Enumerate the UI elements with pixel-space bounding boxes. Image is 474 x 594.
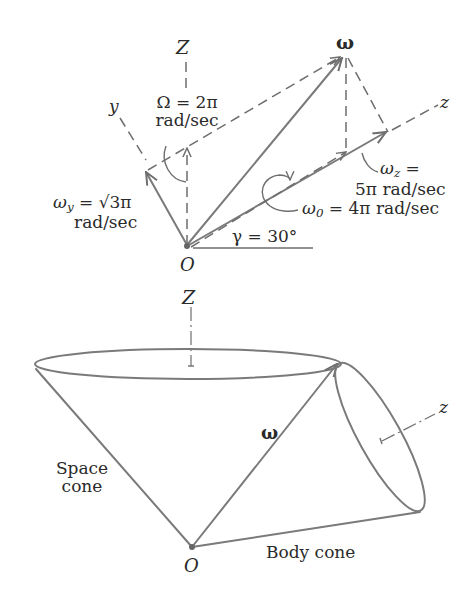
- gamma-angle-label: γ = 30°: [232, 228, 297, 246]
- omega-z-value: 5π rad/sec: [355, 181, 446, 199]
- omega-0-symbol: ω: [302, 198, 316, 218]
- origin-point-top: [184, 243, 190, 249]
- z-axis: [392, 105, 438, 130]
- omega-vector-label-bottom: ω: [261, 424, 278, 443]
- body-cone-label: Body cone: [266, 544, 355, 562]
- omega-z-label: ωz =: [380, 160, 420, 179]
- projection-omega-to-z: [348, 58, 388, 132]
- z-axis-label-bottom: z: [439, 399, 448, 417]
- Z-axis-label-top: Z: [176, 38, 189, 58]
- omega-y-vector: [146, 172, 187, 245]
- omega-vector-bottom: [192, 364, 337, 547]
- omega-y-value: = √3π: [74, 192, 132, 212]
- origin-label-top: O: [180, 256, 195, 275]
- diagram-graphics: [0, 0, 474, 594]
- top-vector-diagram: [120, 57, 438, 249]
- y-axis-label: y: [109, 98, 119, 116]
- omega-y-label: ωy = √3π: [53, 194, 131, 213]
- omega-z-eq: =: [400, 158, 420, 178]
- z-axis-label-top: z: [440, 94, 449, 112]
- origin-point-bottom: [189, 544, 195, 550]
- Omega-label: Ω = 2π rad/sec: [142, 94, 232, 130]
- Z-axis-label-bottom: Z: [182, 288, 195, 308]
- omega-y-symbol: ω: [53, 192, 67, 212]
- omega-y-unit: rad/sec: [74, 214, 137, 232]
- body-cone-rim: [321, 353, 439, 520]
- space-cone-label: Space cone: [52, 460, 112, 496]
- z-axis-tick: [380, 438, 382, 444]
- omega-vector-label-top: ω: [336, 33, 354, 53]
- origin-label-bottom: O: [184, 557, 199, 576]
- Omega-unit: rad/sec: [142, 112, 232, 130]
- Omega-rotation-arrow: [164, 146, 186, 182]
- omega-z-label-leader: [362, 153, 378, 172]
- omega-0-label-leader: [270, 206, 298, 211]
- omega-0-value: = 4π rad/sec: [323, 198, 439, 218]
- space-cone-rim: [35, 349, 341, 379]
- omega-0-label: ω0 = 4π rad/sec: [302, 200, 439, 219]
- precession-figure: Z y z ω Ω = 2π rad/sec ωy = √3π rad/sec …: [0, 0, 474, 594]
- space-cone-line2: cone: [52, 478, 112, 496]
- omega-z-symbol: ω: [380, 158, 394, 178]
- bottom-cone-diagram: [35, 307, 439, 550]
- z-axis-bottom: [382, 414, 435, 441]
- omega-y-subscript: y: [67, 200, 74, 214]
